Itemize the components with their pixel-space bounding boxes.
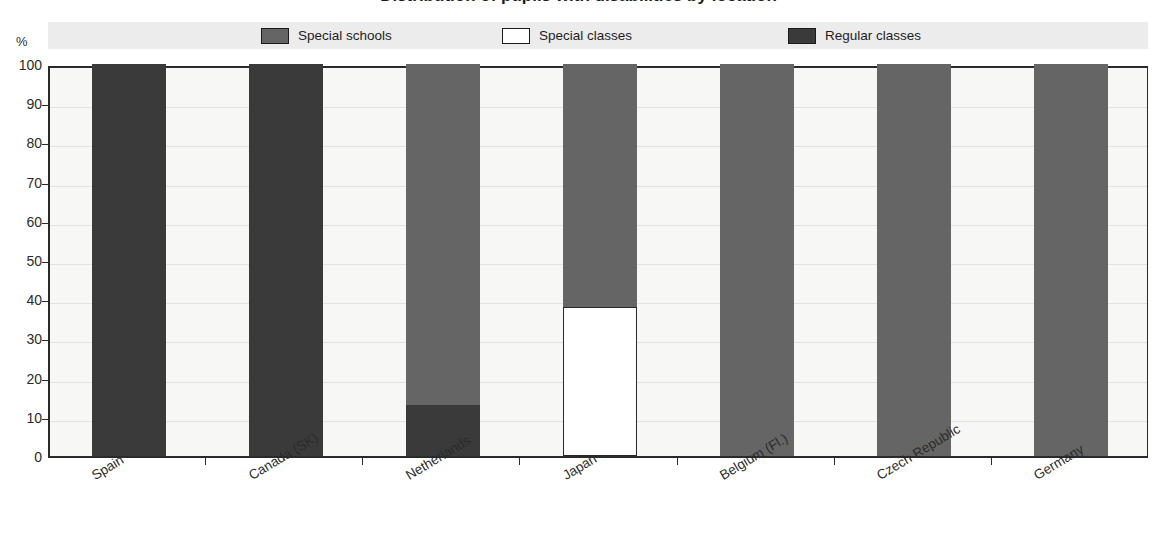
y-axis-label: 70: [8, 176, 42, 190]
y-axis-label: 100: [8, 58, 42, 72]
y-axis-label: 10: [8, 411, 42, 425]
y-axis-label: 50: [8, 254, 42, 268]
bar-segment-special-schools: [720, 64, 794, 456]
plot-area: [48, 66, 1148, 458]
legend-label-regular-classes: Regular classes: [825, 28, 921, 43]
y-axis-label: 90: [8, 97, 42, 111]
bar-belgium-fl[interactable]: [720, 64, 794, 456]
y-axis-label: 0: [8, 450, 42, 464]
x-axis-tick: [362, 458, 363, 465]
bar-czech-republic[interactable]: [877, 64, 951, 456]
chart-legend: Special schools Special classes Regular …: [48, 22, 1148, 49]
chart-title: Distribution of pupils with disabilities…: [0, 0, 1157, 6]
y-axis-label: 80: [8, 136, 42, 150]
bar-germany[interactable]: [1034, 64, 1108, 456]
x-axis-tick: [991, 458, 992, 465]
bar-japan[interactable]: [563, 64, 637, 456]
y-axis-label: 30: [8, 332, 42, 346]
y-axis-label: 20: [8, 372, 42, 386]
bar-segment-special-schools: [877, 64, 951, 456]
x-axis-tick: [519, 458, 520, 465]
x-axis-tick: [834, 458, 835, 465]
legend-swatch-regular-classes: [788, 28, 816, 44]
y-axis-label: 60: [8, 215, 42, 229]
y-axis-label: 40: [8, 293, 42, 307]
bar-netherlands[interactable]: [406, 64, 480, 456]
bar-segment-special-schools: [406, 64, 480, 405]
bar-segment-special-classes: [563, 307, 637, 456]
chart-title-text: Distribution of pupils with disabilities…: [0, 0, 1157, 6]
bar-segment-regular-classes: [249, 64, 323, 456]
bar-segment-special-schools: [1034, 64, 1108, 456]
bar-canada-sk[interactable]: [249, 64, 323, 456]
bar-segment-special-schools: [563, 64, 637, 307]
bar-spain[interactable]: [92, 64, 166, 456]
legend-item-special-schools[interactable]: Special schools: [261, 28, 392, 44]
legend-item-regular-classes[interactable]: Regular classes: [788, 28, 921, 44]
x-axis-tick: [205, 458, 206, 465]
bar-segment-regular-classes: [92, 64, 166, 456]
y-axis-unit-label: %: [16, 34, 28, 49]
legend-item-special-classes[interactable]: Special classes: [502, 28, 632, 44]
x-axis-tick: [677, 458, 678, 465]
legend-label-special-schools: Special schools: [298, 28, 392, 43]
legend-label-special-classes: Special classes: [539, 28, 632, 43]
legend-swatch-special-schools: [261, 28, 289, 44]
legend-swatch-special-classes: [502, 28, 530, 44]
